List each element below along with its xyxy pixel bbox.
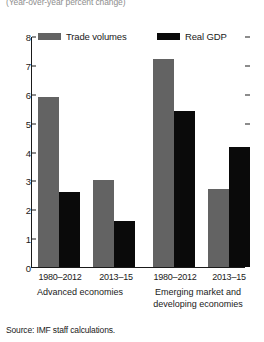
y-tick-label-4: 4	[0, 147, 31, 158]
bar-real-gdp-emerging-2013-15	[229, 147, 250, 267]
y-tick-label-2: 2	[0, 205, 31, 216]
y-tick-mark-6	[32, 94, 36, 95]
y-tick-mark-right-8	[245, 37, 250, 38]
bar-trade-volumes-emerging-2013-15	[208, 189, 229, 267]
bar-trade-volumes-emerging-1980-2012	[153, 59, 174, 267]
chart-source-note: Source: IMF staff calculations.	[6, 325, 115, 335]
x-period-emerging-2013-15: 2013–15	[198, 272, 260, 282]
y-tick-label-1: 1	[0, 234, 31, 245]
y-tick-mark-right-7	[245, 65, 250, 66]
bar-real-gdp-advanced-1980-2012	[59, 192, 80, 267]
y-tick-mark-4	[32, 152, 36, 153]
y-tick-label-6: 6	[0, 89, 31, 100]
chart-figure: (Year-over-year percent change) Trade vo…	[0, 0, 264, 342]
x-axis-line	[31, 267, 245, 268]
y-tick-mark-2	[32, 210, 36, 211]
plot-area: 0 1 2 3 4 5 6 7 8	[31, 37, 245, 268]
y-tick-mark-3	[32, 181, 36, 182]
y-tick-mark-8	[32, 37, 36, 38]
bar-real-gdp-advanced-2013-15	[114, 221, 135, 267]
x-group-label-advanced-economies: Advanced economies	[20, 287, 140, 299]
bar-trade-volumes-advanced-1980-2012	[38, 97, 59, 267]
y-tick-mark-7	[32, 65, 36, 66]
y-tick-label-7: 7	[0, 60, 31, 71]
y-tick-mark-right-5	[245, 123, 250, 124]
y-tick-mark-5	[32, 123, 36, 124]
chart-subtitle: (Year-over-year percent change)	[6, 0, 125, 7]
y-tick-label-3: 3	[0, 176, 31, 187]
bar-real-gdp-emerging-1980-2012	[174, 111, 195, 267]
y-tick-mark-right-6	[245, 94, 250, 95]
bar-trade-volumes-advanced-2013-15	[93, 180, 114, 267]
x-group-label-emerging-economies: Emerging market and developing economies	[143, 287, 253, 310]
y-tick-label-8: 8	[0, 32, 31, 43]
y-tick-mark-1	[32, 239, 36, 240]
y-tick-label-5: 5	[0, 118, 31, 129]
